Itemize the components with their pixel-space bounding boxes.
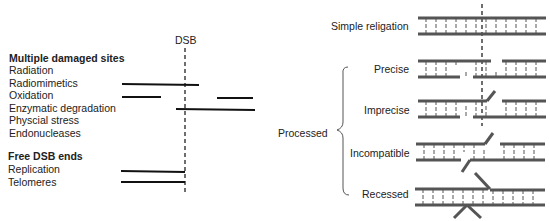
dna-duplexes	[415, 18, 546, 218]
dsb-diagram	[0, 0, 550, 221]
free-end-strands	[121, 171, 185, 182]
processed-brace	[337, 67, 349, 195]
dna-recessed	[415, 173, 545, 218]
dna-incompatible	[416, 133, 545, 172]
damaged-site-strands	[122, 84, 255, 110]
